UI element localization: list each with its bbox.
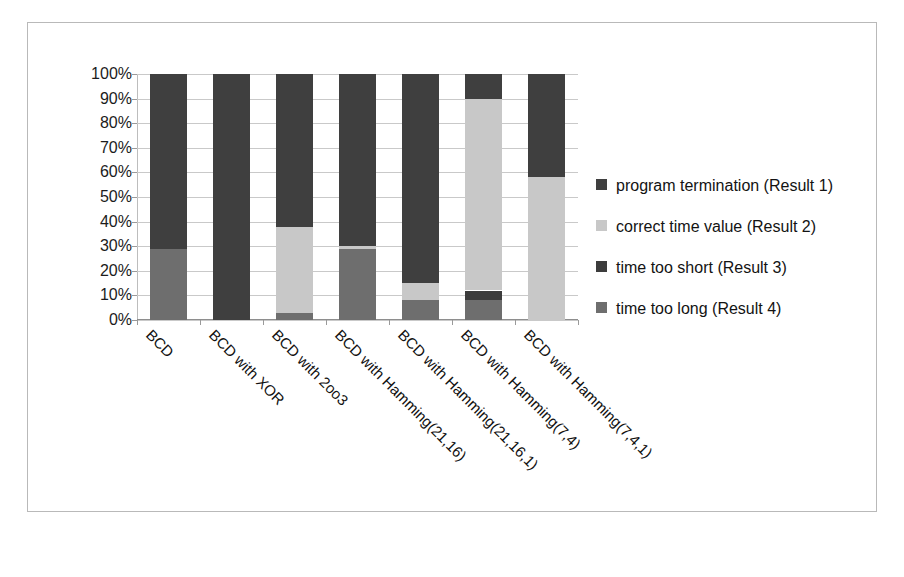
plot-area [137, 74, 578, 320]
chart-frame: 100%90%80%70%60%50%40%30%20%10%0% BCDBCD… [27, 22, 877, 512]
bar-segment [213, 74, 250, 320]
bar-segment [150, 74, 187, 249]
y-axis-tick [132, 295, 137, 296]
legend-swatch-icon [596, 302, 607, 313]
y-axis-label: 70% [100, 140, 132, 156]
y-axis-label: 80% [100, 115, 132, 131]
y-axis-label: 50% [100, 189, 132, 205]
bar-bcd-with-hamming-7-4[interactable] [465, 74, 502, 320]
bar-bcd-with-hamming-21-16-1[interactable] [402, 74, 439, 320]
legend-label: correct time value (Result 2) [616, 216, 816, 237]
bar-segment [402, 283, 439, 300]
bar-segment [339, 74, 376, 246]
y-axis-label: 40% [100, 214, 132, 230]
bar-segment [465, 99, 502, 291]
y-axis-label: 90% [100, 91, 132, 107]
y-axis-label: 20% [100, 263, 132, 279]
y-axis-label: 30% [100, 238, 132, 254]
legend-item[interactable]: time too short (Result 3) [596, 257, 896, 278]
y-axis-tick [132, 74, 137, 75]
bar-segment [150, 249, 187, 320]
legend-item[interactable]: time too long (Result 4) [596, 298, 896, 319]
legend-item[interactable]: correct time value (Result 2) [596, 216, 896, 237]
bar-segment [528, 177, 565, 320]
legend-swatch-icon [596, 179, 607, 190]
legend-label: time too short (Result 3) [616, 257, 787, 278]
bar-segment [339, 249, 376, 320]
bar-segment [402, 300, 439, 320]
y-axis-tick [132, 123, 137, 124]
legend-swatch-icon [596, 261, 607, 272]
y-axis-tick [132, 99, 137, 100]
bar-segment [276, 227, 313, 313]
bar-bcd[interactable] [150, 74, 187, 320]
x-axis-label: BCD with Hamming(21,16) [331, 326, 469, 464]
y-axis-tick [132, 148, 137, 149]
bar-segment [465, 74, 502, 99]
y-axis-tick [132, 222, 137, 223]
x-axis-labels: BCDBCD with XORBCD with 2oo3BCD with Ham… [137, 320, 597, 535]
y-axis-tick [132, 172, 137, 173]
chart-legend: program termination (Result 1)correct ti… [596, 175, 896, 339]
bar-segment [465, 300, 502, 320]
x-axis-label: BCD with Hamming(7,4,1) [520, 326, 655, 461]
y-axis-tick [132, 246, 137, 247]
legend-swatch-icon [596, 220, 607, 231]
x-axis-label: BCD [142, 326, 176, 360]
y-axis-label: 100% [91, 66, 132, 82]
y-axis-label: 10% [100, 287, 132, 303]
bar-segment [276, 74, 313, 227]
y-axis-tick [132, 271, 137, 272]
bar-segment [339, 246, 376, 248]
bar-segment [402, 74, 439, 283]
y-axis-tick [132, 197, 137, 198]
legend-label: time too long (Result 4) [616, 298, 781, 319]
legend-item[interactable]: program termination (Result 1) [596, 175, 896, 196]
bar-bcd-with-hamming-7-4-1[interactable] [528, 74, 565, 320]
bar-bcd-with-hamming-21-16[interactable] [339, 74, 376, 320]
y-axis-label: 0% [109, 312, 132, 328]
x-axis-label: BCD with Hamming(7,4) [457, 326, 583, 452]
y-axis-labels: 100%90%80%70%60%50%40%30%20%10%0% [68, 74, 132, 320]
bar-bcd-with-2oo3[interactable] [276, 74, 313, 320]
y-axis-label: 60% [100, 164, 132, 180]
bar-segment [528, 74, 565, 177]
bar-segment [276, 313, 313, 320]
bar-segment [465, 291, 502, 301]
legend-label: program termination (Result 1) [616, 175, 833, 196]
bar-bcd-with-xor[interactable] [213, 74, 250, 320]
